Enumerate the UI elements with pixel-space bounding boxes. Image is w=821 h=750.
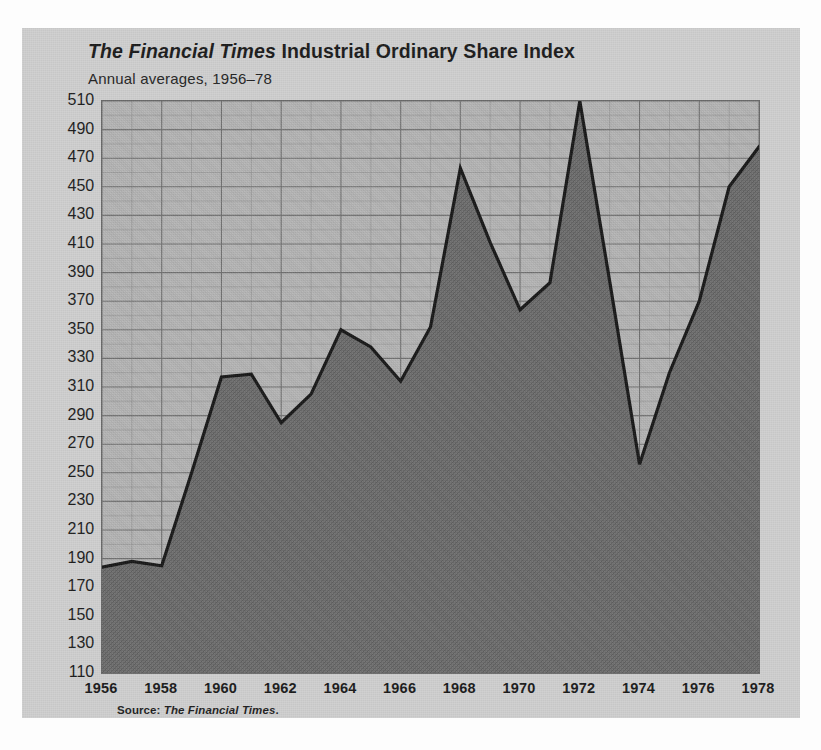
y-axis-tick-label: 270 <box>48 434 94 452</box>
y-axis-tick-label: 110 <box>48 663 94 681</box>
y-axis-labels: 5104904704504304103903703503303102902702… <box>44 100 94 672</box>
x-axis-tick-label: 1964 <box>323 680 356 696</box>
x-axis-tick-label: 1970 <box>503 680 536 696</box>
page-root: The Financial Times Industrial Ordinary … <box>0 0 821 750</box>
title-block: The Financial Times Industrial Ordinary … <box>88 40 778 87</box>
y-axis-tick-label: 470 <box>48 148 94 166</box>
y-axis-tick-label: 290 <box>48 406 94 424</box>
y-axis-tick-label: 350 <box>48 320 94 338</box>
x-axis-tick-label: 1972 <box>562 680 595 696</box>
x-axis-tick-label: 1966 <box>383 680 416 696</box>
x-axis-tick-label: 1956 <box>84 680 117 696</box>
figure-card: The Financial Times Industrial Ordinary … <box>22 28 800 718</box>
y-axis-tick-label: 490 <box>48 120 94 138</box>
y-axis-tick-label: 150 <box>48 606 94 624</box>
y-axis-tick-label: 250 <box>48 463 94 481</box>
source-name: The Financial Times <box>164 704 276 716</box>
plot-area <box>101 100 760 674</box>
y-axis-tick-label: 230 <box>48 491 94 509</box>
y-axis-tick-label: 310 <box>48 377 94 395</box>
x-axis-tick-label: 1978 <box>741 680 774 696</box>
y-axis-tick-label: 330 <box>48 348 94 366</box>
chart-title: The Financial Times Industrial Ordinary … <box>88 40 778 63</box>
chart-subtitle: Annual averages, 1956–78 <box>88 70 778 87</box>
y-axis-tick-label: 390 <box>48 263 94 281</box>
x-axis-tick-label: 1976 <box>682 680 715 696</box>
series-area-chart <box>102 101 759 673</box>
chart-title-lead: The Financial Times <box>88 40 276 62</box>
source-period: . <box>275 704 278 716</box>
y-axis-tick-label: 170 <box>48 577 94 595</box>
y-axis-tick-label: 450 <box>48 177 94 195</box>
source-label: Source: <box>117 704 164 716</box>
chart-title-rest: Industrial Ordinary Share Index <box>276 40 575 62</box>
x-axis-tick-label: 1962 <box>264 680 297 696</box>
y-axis-tick-label: 430 <box>48 205 94 223</box>
x-axis-tick-label: 1960 <box>204 680 237 696</box>
y-axis-tick-label: 130 <box>48 634 94 652</box>
x-axis-tick-label: 1974 <box>622 680 655 696</box>
y-axis-tick-label: 410 <box>48 234 94 252</box>
y-axis-tick-label: 510 <box>48 91 94 109</box>
y-axis-tick-label: 210 <box>48 520 94 538</box>
x-axis-tick-label: 1958 <box>144 680 177 696</box>
y-axis-tick-label: 190 <box>48 549 94 567</box>
source-note: Source: The Financial Times. <box>117 704 279 716</box>
x-axis-labels: 1956195819601962196419661968197019721974… <box>101 680 758 704</box>
x-axis-tick-label: 1968 <box>443 680 476 696</box>
y-axis-tick-label: 370 <box>48 291 94 309</box>
